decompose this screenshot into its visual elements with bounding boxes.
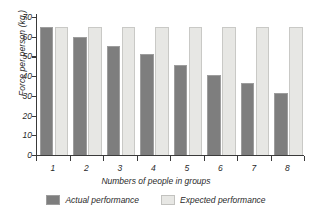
bar-group bbox=[241, 17, 270, 155]
bar-expected-performance bbox=[189, 27, 203, 155]
legend-item-actual: Actual performance bbox=[46, 195, 139, 205]
x-axis-tick-mark bbox=[137, 156, 138, 161]
bar-actual-performance bbox=[107, 46, 121, 155]
x-axis-tick-mark bbox=[204, 156, 205, 161]
y-axis-tick-mark bbox=[32, 17, 37, 18]
y-axis-tick-mark bbox=[32, 76, 37, 77]
bar-actual-performance bbox=[174, 65, 188, 155]
bar-expected-performance bbox=[222, 27, 236, 155]
x-axis-category-label: 3 bbox=[108, 163, 132, 173]
bar-group bbox=[73, 17, 102, 155]
bar-expected-performance bbox=[55, 27, 69, 155]
plot-area: 12345678 bbox=[36, 17, 304, 155]
x-axis-tick-mark bbox=[70, 156, 71, 161]
bar-actual-performance bbox=[140, 54, 154, 155]
y-axis-tick-label: 10 bbox=[14, 130, 32, 140]
x-axis-tick-mark bbox=[237, 156, 238, 161]
bar-group bbox=[207, 17, 236, 155]
y-axis-tick-mark bbox=[32, 135, 37, 136]
y-axis-title: Force per person (kg.) bbox=[17, 0, 27, 113]
bar-group bbox=[274, 17, 303, 155]
legend-item-expected: Expected performance bbox=[161, 195, 266, 205]
x-axis-category-label: 4 bbox=[141, 163, 165, 173]
y-axis-tick-mark bbox=[32, 56, 37, 57]
y-axis-tick-mark bbox=[32, 96, 37, 97]
bar-group bbox=[40, 17, 69, 155]
bar-actual-performance bbox=[73, 37, 87, 155]
x-axis-category-label: 1 bbox=[41, 163, 65, 173]
legend-label-expected: Expected performance bbox=[180, 195, 266, 205]
bar-chart: 010203040506070 Force per person (kg.) 1… bbox=[0, 0, 312, 218]
bar-expected-performance bbox=[256, 27, 270, 155]
legend-label-actual: Actual performance bbox=[65, 195, 139, 205]
bar-group bbox=[174, 17, 203, 155]
bar-actual-performance bbox=[207, 75, 221, 155]
bar-expected-performance bbox=[88, 27, 102, 155]
x-axis-tick-mark bbox=[170, 156, 171, 161]
bar-group bbox=[107, 17, 136, 155]
bar-expected-performance bbox=[122, 27, 136, 155]
chart-legend: Actual performance Expected performance bbox=[0, 195, 312, 205]
bar-expected-performance bbox=[289, 27, 303, 155]
bar-expected-performance bbox=[155, 27, 169, 155]
bar-actual-performance bbox=[241, 83, 255, 155]
y-axis-tick-label: 0 bbox=[14, 150, 32, 160]
light-gray-swatch-icon bbox=[161, 195, 175, 205]
x-axis-tick-mark bbox=[271, 156, 272, 161]
y-axis-tick-mark bbox=[32, 37, 37, 38]
x-axis-category-label: 8 bbox=[275, 163, 299, 173]
x-axis-tick-mark bbox=[103, 156, 104, 161]
bar-actual-performance bbox=[40, 27, 54, 155]
x-axis-title: Numbers of people in groups bbox=[0, 176, 312, 186]
y-axis-tick-mark bbox=[32, 116, 37, 117]
bar-actual-performance bbox=[274, 93, 288, 155]
x-axis-category-label: 2 bbox=[74, 163, 98, 173]
bar-group bbox=[140, 17, 169, 155]
y-axis-line bbox=[36, 14, 37, 155]
x-axis-tick-mark bbox=[304, 156, 305, 161]
x-axis-category-label: 6 bbox=[208, 163, 232, 173]
x-axis-category-label: 5 bbox=[175, 163, 199, 173]
dark-gray-swatch-icon bbox=[46, 195, 60, 205]
x-axis-category-label: 7 bbox=[242, 163, 266, 173]
x-axis-tick-mark bbox=[36, 156, 37, 161]
